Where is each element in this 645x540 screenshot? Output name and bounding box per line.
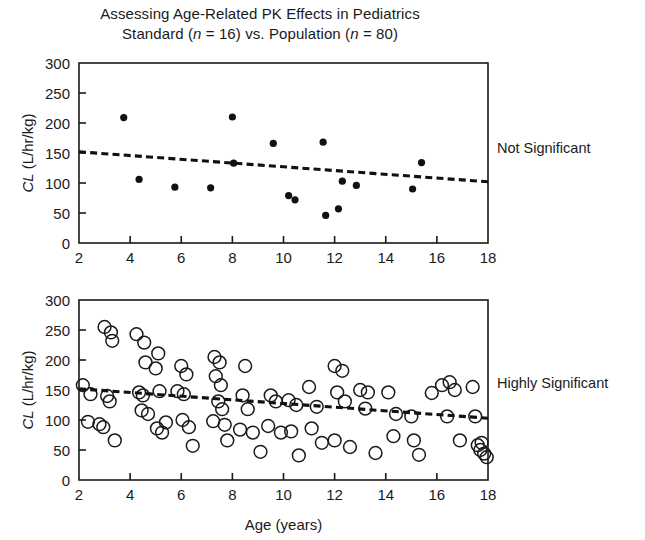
y-axis-label: CL (L/hr/kg) [19, 113, 36, 192]
data-point [413, 448, 426, 461]
x-axis-tick-label: 6 [177, 249, 185, 266]
y-axis-tick-label: 150 [45, 382, 70, 399]
data-point [270, 140, 277, 147]
data-point [407, 434, 420, 447]
data-point [207, 184, 214, 191]
x-axis-tick-label: 4 [126, 486, 134, 503]
x-axis-tick-label: 18 [480, 249, 497, 266]
data-point [387, 430, 400, 443]
y-axis-tick-label: 0 [62, 472, 70, 489]
data-point [93, 418, 106, 431]
x-axis-tick-label: 16 [429, 486, 446, 503]
figure-title-block: Assessing Age-Related PK Effects in Pedi… [0, 4, 520, 45]
data-point [221, 434, 234, 447]
x-axis-tick-label: 12 [326, 486, 343, 503]
data-point [305, 422, 318, 435]
data-point [239, 360, 252, 373]
y-axis-tick-label: 200 [45, 352, 70, 369]
plot-frame [79, 63, 488, 243]
x-axis-label: Age (years) [245, 516, 323, 533]
x-axis-tick-label: 4 [126, 249, 134, 266]
data-point [120, 114, 127, 121]
data-point [418, 159, 425, 166]
x-axis-tick-label: 12 [326, 249, 343, 266]
data-point [171, 184, 178, 191]
x-axis-tick-label: 2 [75, 486, 83, 503]
data-point [409, 185, 416, 192]
data-point [241, 403, 254, 416]
data-point [106, 334, 119, 347]
data-point [382, 386, 395, 399]
standard-panel: 05010015020025030024681012141618CL (L/hr… [19, 55, 496, 267]
data-point [212, 395, 225, 408]
y-axis-tick-label: 250 [45, 322, 70, 339]
y-axis-tick-label: 200 [45, 115, 70, 132]
x-axis-tick-label: 18 [480, 486, 497, 503]
y-axis-label: CL (L/hr/kg) [19, 350, 36, 429]
data-point [246, 426, 259, 439]
data-point [320, 139, 327, 146]
y-axis-tick-label: 50 [53, 442, 70, 459]
y-axis-tick-label: 300 [45, 292, 70, 309]
data-point [339, 178, 346, 185]
data-point [262, 420, 275, 433]
data-point [315, 436, 328, 449]
x-axis-tick-label: 14 [377, 249, 394, 266]
data-point [292, 449, 305, 462]
x-axis-tick-label: 10 [275, 249, 292, 266]
data-point [344, 441, 357, 454]
data-point [466, 381, 479, 394]
y-axis-tick-label: 50 [53, 205, 70, 222]
x-axis-tick-label: 8 [228, 249, 236, 266]
data-point [186, 439, 199, 452]
data-point [353, 182, 360, 189]
figure-title-line-1: Assessing Age-Related PK Effects in Pedi… [0, 4, 520, 24]
x-axis-tick-label: 10 [275, 486, 292, 503]
y-axis-tick-label: 250 [45, 85, 70, 102]
data-point [369, 447, 382, 460]
data-point [291, 196, 298, 203]
data-point [390, 408, 403, 421]
data-point [108, 434, 121, 447]
data-point [254, 445, 267, 458]
data-point [328, 434, 341, 447]
data-point [322, 212, 329, 219]
plot-canvas: 05010015020025030024681012141618CL (L/hr… [0, 0, 645, 540]
data-point [234, 423, 247, 436]
y-axis-tick-label: 300 [45, 55, 70, 72]
title-standard-pre: Standard ( [122, 25, 193, 42]
data-point [285, 192, 292, 199]
y-axis-tick-label: 150 [45, 145, 70, 162]
data-point [361, 386, 374, 399]
data-point [354, 384, 367, 397]
figure-root: Assessing Age-Related PK Effects in Pedi… [0, 0, 645, 540]
x-axis-tick-label: 14 [377, 486, 394, 503]
data-point [137, 389, 150, 402]
population-panel: 05010015020025030024681012141618CL (L/hr… [19, 292, 496, 534]
annotation-not-significant: Not Significant [497, 140, 591, 156]
data-point [97, 421, 110, 434]
annotation-highly-significant: Highly Significant [497, 375, 608, 391]
data-point [331, 386, 344, 399]
data-point [82, 415, 95, 428]
figure-title-line-2: Standard (n = 16) vs. Population (n = 80… [0, 24, 520, 44]
data-point [149, 362, 162, 375]
x-axis-tick-label: 16 [429, 249, 446, 266]
data-point [229, 113, 236, 120]
data-point [130, 328, 143, 341]
data-point [213, 356, 226, 369]
title-standard-mid: = 16) vs. Population ( [202, 25, 351, 42]
data-point [216, 403, 229, 416]
data-point [208, 351, 221, 364]
data-point [303, 381, 316, 394]
y-axis-tick-label: 0 [62, 235, 70, 252]
title-n-italic-2: n [350, 25, 358, 42]
data-point [138, 336, 151, 349]
title-standard-post: = 80) [359, 25, 398, 42]
data-point [338, 395, 351, 408]
title-n-italic-1: n [193, 25, 201, 42]
data-point [453, 434, 466, 447]
x-axis-tick-label: 6 [177, 486, 185, 503]
x-axis-tick-label: 2 [75, 249, 83, 266]
data-point [152, 347, 165, 360]
